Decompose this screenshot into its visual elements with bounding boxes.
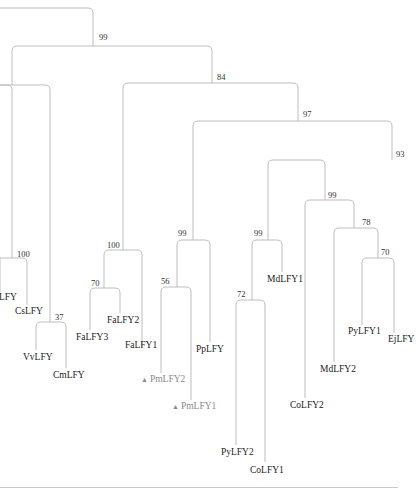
bootstrap-99-right: 99 xyxy=(328,191,337,200)
triangle-marker-icon: ▲ xyxy=(172,403,179,411)
leaf-falfy1: FaLFY1 xyxy=(125,341,157,351)
leaf-falfy3: FaLFY3 xyxy=(76,333,108,343)
bootstrap-56: 56 xyxy=(161,277,170,286)
leaf-pylfy2: PyLFY2 xyxy=(221,448,254,458)
bootstrap-100-fa: 100 xyxy=(107,241,120,250)
bootstrap-37: 37 xyxy=(55,313,64,322)
leaf-pmlfy2-label: PmLFY2 xyxy=(150,374,185,384)
bootstrap-97: 97 xyxy=(303,110,312,119)
bootstrap-70-right: 70 xyxy=(381,248,390,257)
bootstrap-84: 84 xyxy=(217,73,226,82)
leaf-falfy2: FaLFY2 xyxy=(107,316,139,326)
leaf-cut-lfy: LFY xyxy=(0,293,17,303)
leaf-cslfy: CsLFY xyxy=(15,307,43,317)
bootstrap-70-fa: 70 xyxy=(91,279,100,288)
leaf-vvlfy: VvLFY xyxy=(23,353,53,363)
leaf-cmlfy: CmLFY xyxy=(53,371,85,381)
leaf-pmlfy1-label: PmLFY1 xyxy=(181,401,216,411)
leaf-mdlfy1: MdLFY1 xyxy=(267,275,303,285)
leaf-colfy2: CoLFY2 xyxy=(290,401,324,411)
bootstrap-99-mdlfy1: 99 xyxy=(254,229,263,238)
leaf-pmlfy2: ▲PmLFY2 xyxy=(141,375,185,385)
leaf-pplfy: PpLFY xyxy=(196,345,224,355)
leaf-mdlfy2: MdLFY2 xyxy=(320,365,356,375)
leaf-pmlfy1: ▲PmLFY1 xyxy=(172,402,216,412)
bootstrap-78: 78 xyxy=(362,218,371,227)
bootstrap-100-cs: 100 xyxy=(17,250,30,259)
bootstrap-93: 93 xyxy=(396,150,405,159)
bootstrap-99-pm: 99 xyxy=(178,229,187,238)
bottom-rule xyxy=(0,487,398,488)
tree-branches xyxy=(0,0,417,492)
triangle-marker-icon: ▲ xyxy=(141,376,148,384)
leaf-colfy1: CoLFY1 xyxy=(250,466,284,476)
leaf-pylfy1: PyLFY1 xyxy=(348,327,381,337)
leaf-ejlfy: EjLFY xyxy=(388,335,414,345)
bootstrap-72: 72 xyxy=(237,290,246,299)
bootstrap-root: 99 xyxy=(99,33,108,42)
